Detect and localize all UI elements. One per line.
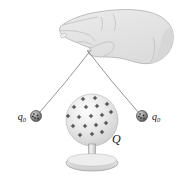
right-ball [137, 111, 148, 122]
label-central-charge: Q [112, 132, 121, 146]
sphere-body [66, 94, 118, 146]
hand-outline [60, 10, 174, 64]
test-charge-left [31, 111, 42, 122]
electrostatics-figure: q0 q0 Q [0, 0, 178, 177]
charged-sphere [66, 94, 118, 146]
stand-base-top [68, 154, 117, 167]
label-left-charge: q0 [18, 111, 27, 123]
hand [60, 10, 174, 64]
label-right-charge: q0 [152, 111, 161, 123]
sphere-stand [66, 144, 118, 171]
test-charge-right [137, 111, 148, 122]
left-ball [31, 111, 42, 122]
physics-figure-canvas: q0 q0 Q [0, 0, 178, 177]
